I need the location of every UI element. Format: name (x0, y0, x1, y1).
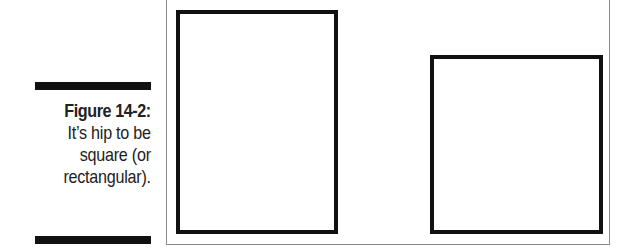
caption-line-1: It’s hip to be (64, 122, 151, 144)
rectangle-shape (176, 10, 338, 234)
caption-bottom-rule (35, 236, 151, 244)
caption-line-3: rectangular). (64, 166, 151, 188)
caption-line-2: square (or (64, 144, 151, 166)
figure-caption: Figure 14-2: It’s hip to be square (or r… (48, 100, 151, 188)
figure-label: Figure 14-2: (64, 100, 151, 122)
caption-top-rule (35, 82, 151, 90)
square-shape (430, 55, 603, 234)
